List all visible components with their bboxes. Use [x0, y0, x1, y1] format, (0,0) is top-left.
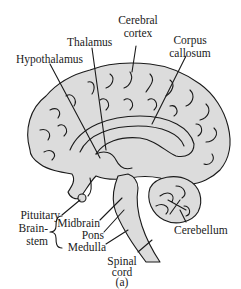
label-thalamus: Thalamus — [67, 36, 112, 48]
label-brainstem-line1: Brain- — [8, 222, 48, 234]
label-corpus-callosum-line2: callosum — [163, 47, 217, 59]
label-corpus-callosum-line1: Corpus — [163, 34, 217, 46]
leader-medulla — [106, 230, 128, 244]
leader-pituitary — [62, 200, 80, 215]
label-medulla: Medulla — [56, 241, 106, 253]
label-cerebral-cortex-line2: cortex — [113, 27, 163, 39]
panel-label: (a) — [104, 276, 140, 288]
label-hypothalamus: Hypothalamus — [16, 53, 83, 65]
label-midbrain: Midbrain — [56, 217, 100, 229]
cerebellum-shape — [149, 177, 201, 223]
label-pons: Pons — [56, 229, 104, 241]
label-pituitary: Pituitary — [6, 209, 60, 221]
label-brainstem-line2: stem — [8, 235, 48, 247]
label-cerebellum: Cerebellum — [174, 224, 228, 236]
label-cerebral-cortex-line1: Cerebral — [113, 14, 163, 26]
